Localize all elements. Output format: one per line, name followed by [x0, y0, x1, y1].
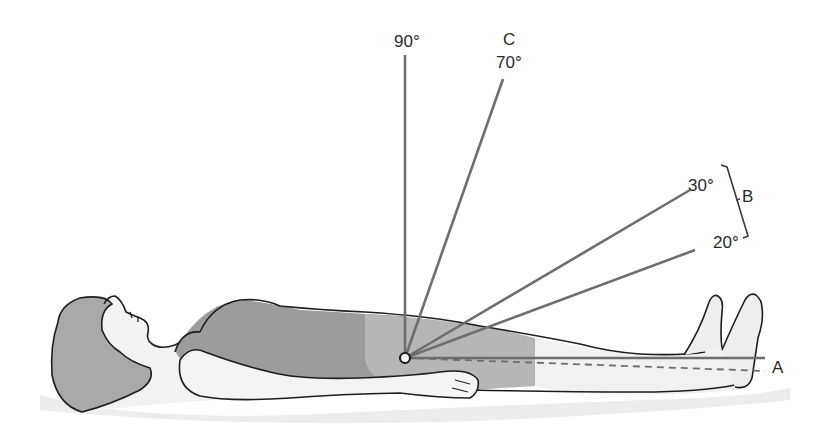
label-90-degrees: 90° — [394, 33, 420, 50]
left-foot — [684, 295, 723, 355]
label-20-degrees: 20° — [713, 234, 739, 251]
label-C: C — [503, 31, 515, 48]
hip-pivot-marker — [400, 353, 410, 363]
line-70 — [405, 79, 503, 358]
label-70-degrees: 70° — [496, 54, 522, 71]
line-30 — [405, 190, 690, 358]
label-B: B — [742, 188, 753, 205]
label-A: A — [772, 359, 783, 376]
diagram-canvas — [0, 0, 825, 446]
label-30-degrees: 30° — [688, 177, 714, 194]
